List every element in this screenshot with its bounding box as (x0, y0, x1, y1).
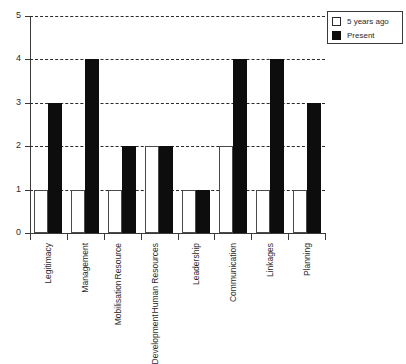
y-axis-label: 0 (0, 228, 21, 237)
legend-swatch-past-icon (332, 17, 341, 26)
bar-past (182, 190, 196, 233)
x-axis-tick (214, 234, 215, 240)
bar-past (293, 190, 307, 233)
legend-item-past: 5 years ago (332, 15, 398, 27)
x-axis-label-line: Development (151, 314, 161, 364)
bar-past (71, 190, 85, 233)
bar-past (108, 190, 122, 233)
x-axis-tick (141, 234, 142, 240)
x-axis-tick (67, 234, 68, 240)
plot-area (30, 16, 325, 233)
gridline (30, 16, 325, 17)
bar-past (256, 190, 270, 233)
x-axis-label: Human ResourcesDevelopment (151, 243, 161, 364)
x-axis-label-line: Linkages (266, 243, 276, 277)
x-axis-label-line: Resource (114, 243, 124, 279)
x-axis-tick (288, 234, 289, 240)
bar-present (196, 190, 210, 233)
x-axis-tick (178, 234, 179, 240)
bar-present (85, 59, 99, 233)
legend-swatch-present-icon (332, 31, 341, 40)
y-axis-label: 2 (0, 141, 21, 150)
x-axis-label-line: Management (81, 243, 91, 293)
x-axis-tick (251, 234, 252, 240)
bar-present (233, 59, 247, 233)
x-axis-label-line: Leadership (192, 243, 202, 285)
x-axis-tick (325, 234, 326, 240)
bar-past (145, 146, 159, 233)
x-axis-tick (30, 234, 31, 240)
x-axis-label-line: Communication (229, 243, 239, 302)
x-axis-label: Management (81, 243, 91, 293)
y-axis-label: 1 (0, 185, 21, 194)
legend-label-present: Present (347, 31, 375, 40)
bar-present (307, 103, 321, 233)
y-axis-label: 3 (0, 98, 21, 107)
bar-present (48, 103, 62, 233)
x-axis-label: Communication (229, 243, 239, 302)
x-axis-label: Planning (303, 243, 313, 276)
bar-past (219, 146, 233, 233)
y-axis-label: 5 (0, 11, 21, 20)
bar-present (122, 146, 136, 233)
x-axis-label: Leadership (192, 243, 202, 285)
legend: 5 years ago Present (327, 11, 403, 44)
x-axis-label-line: Mobilisation (114, 280, 124, 325)
x-axis-label-line: Human Resources (151, 243, 161, 313)
x-axis-label-line: Legitimacy (44, 243, 54, 284)
bar-present (270, 59, 284, 233)
legend-label-past: 5 years ago (347, 17, 389, 26)
x-axis-label: Linkages (266, 243, 276, 277)
legend-item-present: Present (332, 29, 398, 41)
bar-past (34, 190, 48, 233)
x-axis-label: Legitimacy (44, 243, 54, 284)
x-axis-label-line: Planning (303, 243, 313, 276)
bar-present (159, 146, 173, 233)
y-axis-label: 4 (0, 54, 21, 63)
x-axis-tick (104, 234, 105, 240)
x-axis-label: ResourceMobilisation (114, 243, 124, 325)
